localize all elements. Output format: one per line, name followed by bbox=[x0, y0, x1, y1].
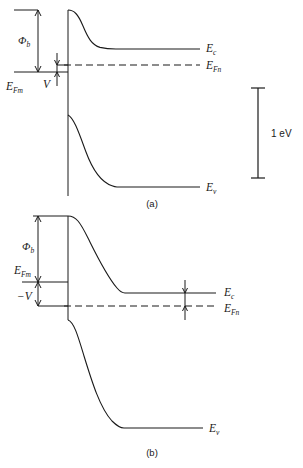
energy-band-figure: Φb EFm V Ec EFn Ev (a) 1 eV bbox=[0, 0, 303, 468]
bias-label-b: −V bbox=[17, 290, 34, 302]
conduction-band-curve-b bbox=[68, 216, 125, 293]
panel-caption-a: (a) bbox=[146, 198, 158, 209]
conduction-band-curve-a bbox=[68, 10, 116, 49]
barrier-label-a: Φb bbox=[18, 34, 30, 49]
scale-bar: 1 eV bbox=[251, 88, 292, 178]
panel-b: Φb EFm −V Ec EFn Ev (b) bbox=[13, 216, 240, 458]
barrier-label-b: Φb bbox=[22, 240, 34, 255]
bias-label-a: V bbox=[43, 78, 52, 90]
semi-fermi-label-b: EFn bbox=[223, 302, 240, 317]
conduction-band-label-b: Ec bbox=[223, 286, 235, 301]
panel-caption-b: (b) bbox=[146, 447, 158, 458]
conduction-band-label-a: Ec bbox=[205, 42, 217, 57]
semi-fermi-label-a: EFn bbox=[205, 59, 222, 74]
panel-a: Φb EFm V Ec EFn Ev (a) bbox=[5, 10, 222, 209]
metal-fermi-label-a: EFm bbox=[5, 80, 24, 95]
scale-bar-label: 1 eV bbox=[271, 128, 292, 139]
valence-band-label-b: Ev bbox=[208, 422, 220, 437]
valence-band-curve-b bbox=[68, 320, 124, 428]
valence-band-label-a: Ev bbox=[205, 181, 217, 196]
valence-band-curve-a bbox=[68, 115, 117, 187]
metal-fermi-label-b: EFm bbox=[13, 264, 32, 279]
energy-band-diagram-svg: Φb EFm V Ec EFn Ev (a) 1 eV bbox=[0, 0, 303, 468]
